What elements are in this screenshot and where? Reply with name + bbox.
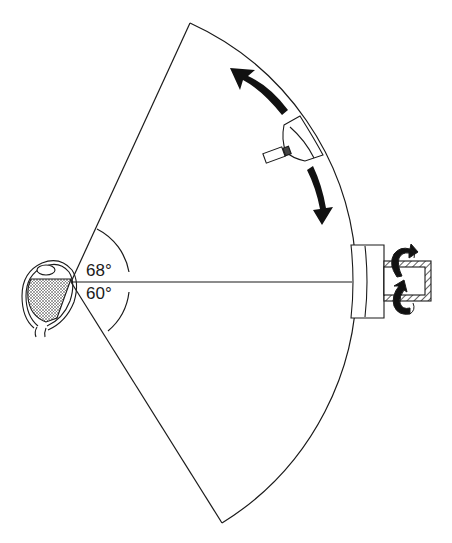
rotation-shaft (384, 261, 431, 301)
moving-stimulus-lamp (263, 116, 323, 163)
sector-lower-edge (71, 282, 222, 523)
lower-angle-label: 60° (86, 284, 112, 303)
eye-lens (37, 265, 55, 275)
angle-arc (97, 229, 129, 331)
eye (22, 261, 77, 337)
perimeter-diagram: 68° 60° (0, 0, 452, 543)
optic-nerve (35, 327, 46, 337)
move-down-arrow (307, 166, 333, 225)
eye-vitreous (28, 279, 71, 322)
visual-field-sector (71, 23, 356, 523)
rotate-bottom-arrow-tail (410, 303, 414, 314)
sector-upper-edge (71, 23, 190, 282)
upper-angle-label: 68° (86, 261, 112, 280)
fixation-block (351, 245, 384, 318)
move-up-arrow (230, 68, 288, 115)
lamp-projector (263, 147, 285, 163)
